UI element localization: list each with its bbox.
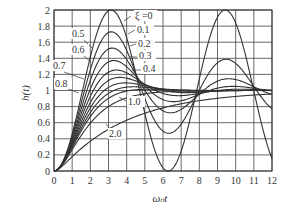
x-axis-ticks: 0123456789101112 (52, 175, 278, 186)
curve-label: 0.2 (138, 38, 151, 49)
y-tick-label: 2 (45, 5, 50, 16)
x-tick-label: 8 (197, 175, 202, 186)
y-tick-label: 0.8 (38, 101, 51, 112)
x-tick-label: 3 (106, 175, 111, 186)
x-tick-label: 7 (179, 175, 184, 186)
x-tick-label: 12 (267, 175, 277, 186)
x-tick-label: 4 (124, 175, 129, 186)
curve-label: 1.0 (128, 96, 141, 107)
curve-label: 0.4 (143, 63, 156, 74)
y-tick-label: 1 (45, 85, 50, 96)
y-tick-label: 1.6 (38, 37, 51, 48)
x-axis-title: ωₙt (153, 192, 169, 204)
curve-label: 0.5 (72, 28, 85, 39)
y-axis-ticks: 00.20.40.60.811.21.41.61.82 (38, 5, 51, 177)
x-tick-label: 1 (70, 175, 75, 186)
curve-label: ξ =0 (135, 10, 153, 22)
y-tick-label: 1.4 (38, 53, 51, 64)
curve-label: 0.1 (137, 24, 150, 35)
x-tick-label: 9 (215, 175, 220, 186)
curve-label: 0.3 (139, 50, 152, 61)
x-tick-label: 2 (88, 175, 93, 186)
x-tick-label: 6 (161, 175, 166, 186)
y-tick-label: 0.2 (38, 149, 51, 160)
curve-label: 0.7 (53, 60, 66, 71)
x-tick-label: 5 (142, 175, 147, 186)
y-axis-title: h(t) (19, 85, 32, 101)
x-tick-label: 10 (231, 175, 241, 186)
curve-label: 0.6 (72, 44, 85, 55)
step-response-chart: ξ =00.10.20.30.40.50.60.70.81.02.0 01234… (0, 0, 294, 224)
curve-label: 0.8 (55, 78, 68, 89)
curve-label: 2.0 (109, 128, 122, 139)
x-tick-label: 11 (249, 175, 259, 186)
y-tick-label: 1.8 (38, 21, 51, 32)
label-leader-line (130, 44, 136, 46)
y-tick-label: 0 (45, 166, 50, 177)
y-tick-label: 0.6 (38, 117, 51, 128)
x-tick-label: 0 (52, 175, 57, 186)
y-tick-label: 1.2 (38, 69, 51, 80)
label-leader-line (128, 30, 135, 34)
y-tick-label: 0.4 (38, 133, 51, 144)
label-leader-line (124, 16, 131, 21)
